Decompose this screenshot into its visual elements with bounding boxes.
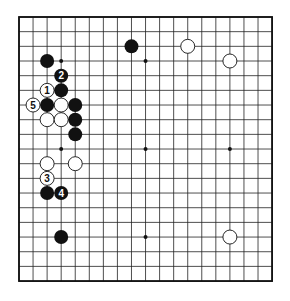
black-stone-2: 2 — [54, 69, 68, 83]
black-stone — [54, 83, 68, 97]
white-stone — [54, 98, 68, 112]
white-stone-icon — [68, 157, 82, 171]
move-number-label: 4 — [58, 188, 64, 199]
star-point — [144, 147, 148, 151]
move-number-label: 1 — [44, 85, 50, 96]
black-stone-icon — [40, 54, 54, 68]
black-stone — [40, 98, 54, 112]
black-stone-icon — [54, 83, 68, 97]
black-stone-icon — [54, 230, 68, 244]
white-stone-5: 5 — [26, 98, 40, 112]
white-stone-icon — [40, 157, 54, 171]
white-stone — [40, 113, 54, 127]
black-stone-icon — [68, 127, 82, 141]
black-stone — [124, 39, 138, 53]
white-stone — [68, 157, 82, 171]
black-stone-icon — [40, 98, 54, 112]
black-stone-icon — [68, 98, 82, 112]
white-stone — [54, 113, 68, 127]
white-stone-icon — [40, 113, 54, 127]
black-stone — [54, 230, 68, 244]
black-stone — [68, 113, 82, 127]
black-stone — [68, 98, 82, 112]
white-stone — [40, 157, 54, 171]
white-stone-icon — [54, 98, 68, 112]
black-stone-icon — [40, 186, 54, 200]
star-point — [144, 59, 148, 63]
black-stone — [68, 127, 82, 141]
black-stone-icon — [68, 113, 82, 127]
white-stone — [223, 230, 237, 244]
go-board[interactable]: 21534 — [0, 0, 290, 301]
white-stone-1: 1 — [40, 83, 54, 97]
move-number-label: 5 — [30, 100, 36, 111]
white-stone-icon — [223, 230, 237, 244]
black-stone-icon — [124, 39, 138, 53]
white-stone — [223, 54, 237, 68]
move-number-label: 2 — [58, 70, 64, 81]
white-stone-3: 3 — [40, 171, 54, 185]
star-point — [59, 59, 63, 63]
black-stone — [40, 186, 54, 200]
black-stone — [40, 54, 54, 68]
white-stone-icon — [181, 39, 195, 53]
white-stone-icon — [223, 54, 237, 68]
white-stone — [181, 39, 195, 53]
star-point — [59, 147, 63, 151]
black-stone-4: 4 — [54, 186, 68, 200]
star-point — [144, 235, 148, 239]
white-stone-icon — [54, 113, 68, 127]
star-point — [228, 147, 232, 151]
move-number-label: 3 — [44, 173, 50, 184]
